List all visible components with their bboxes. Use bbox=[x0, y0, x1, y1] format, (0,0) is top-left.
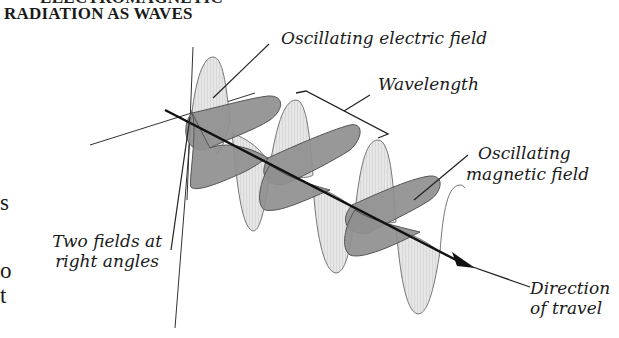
label-right-angles-line2: right angles bbox=[42, 252, 159, 271]
arrowhead-icon bbox=[452, 252, 475, 268]
label-magnetic-field-line2: magnetic field bbox=[466, 165, 589, 184]
label-magnetic-field-line1: Oscillating bbox=[478, 144, 571, 163]
label-oscillating-electric-field: Oscillating electric field bbox=[281, 29, 487, 48]
label-right-angles-line1: Two fields at bbox=[42, 232, 162, 251]
label-wavelength: Wavelength bbox=[378, 75, 479, 94]
label-direction-line2: of travel bbox=[530, 299, 602, 318]
label-direction-line1: Direction bbox=[530, 279, 610, 298]
origin-reference-axes bbox=[90, 47, 255, 328]
